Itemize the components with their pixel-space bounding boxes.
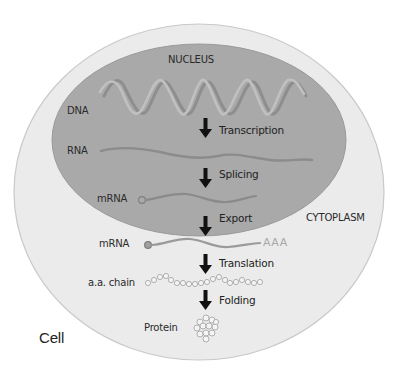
- cell-label: Cell: [39, 329, 64, 346]
- step-splicing: Splicing: [219, 168, 259, 180]
- dna-label: DNA: [67, 105, 88, 116]
- nucleus: [52, 44, 346, 236]
- cytoplasm-label: CYTOPLASM: [306, 212, 365, 223]
- aa-chain-label: a.a. chain: [88, 277, 135, 288]
- poly-a-tail-cytoplasmic: AAA: [263, 236, 288, 249]
- poly-a-tail-nuclear: AAA: [258, 191, 283, 204]
- mrna-cytoplasmic-label: mRNA: [99, 238, 129, 249]
- protein-label: Protein: [144, 322, 178, 333]
- mrna-cap-icon: [145, 242, 152, 249]
- step-folding: Folding: [219, 294, 256, 306]
- step-transcription: Transcription: [219, 124, 284, 136]
- step-translation: Translation: [219, 257, 274, 269]
- mrna-cap-icon: [139, 197, 146, 204]
- rna-label: RNA: [67, 145, 88, 156]
- step-export: Export: [219, 212, 252, 224]
- mrna-nuclear-label: mRNA: [97, 193, 127, 204]
- nucleus-label: NUCLEUS: [168, 54, 214, 65]
